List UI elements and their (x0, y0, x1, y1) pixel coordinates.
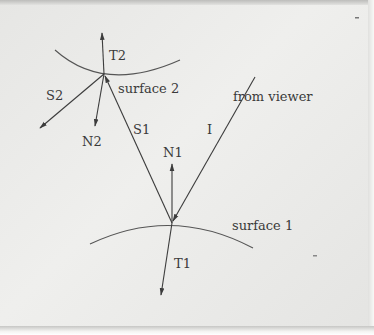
label-s1: S1 (133, 122, 150, 137)
label-t2: T2 (109, 48, 126, 63)
ray-diagram: T2 surface 2 from viewer S2 N2 S1 I N1 s… (0, 0, 374, 335)
label-from-viewer: from viewer (233, 89, 313, 104)
diagram-photo: T2 surface 2 from viewer S2 N2 S1 I N1 s… (0, 0, 374, 335)
speck (355, 17, 359, 19)
label-n2: N2 (82, 134, 102, 149)
speck (313, 255, 317, 257)
t1-arrow (161, 223, 172, 295)
s1-ray (105, 76, 172, 223)
label-i: I (207, 122, 212, 137)
label-s2: S2 (46, 88, 63, 103)
label-n1: N1 (163, 145, 183, 160)
label-t1: T1 (174, 256, 191, 271)
label-surface-1: surface 1 (232, 218, 293, 233)
n2-arrow (95, 74, 104, 126)
t2-arrow (102, 33, 104, 74)
label-surface-2: surface 2 (118, 81, 179, 96)
